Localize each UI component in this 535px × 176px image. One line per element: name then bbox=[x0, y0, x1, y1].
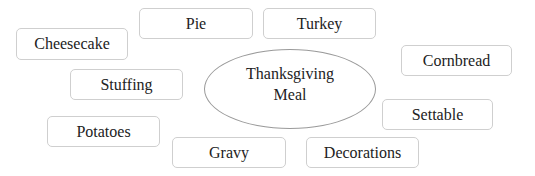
node-decorations: Decorations bbox=[306, 137, 419, 168]
node-potatoes: Potatoes bbox=[47, 116, 160, 147]
node-cornbread: Cornbread bbox=[401, 45, 512, 76]
central-topic-line-2: Meal bbox=[274, 84, 307, 105]
central-topic-line-1: Thanksgiving bbox=[246, 63, 334, 84]
node-settable: Settable bbox=[382, 99, 493, 130]
node-label: Pie bbox=[186, 16, 206, 32]
node-cheesecake: Cheesecake bbox=[16, 28, 128, 60]
node-label: Cheesecake bbox=[34, 36, 110, 52]
node-turkey: Turkey bbox=[263, 8, 376, 39]
node-label: Stuffing bbox=[100, 77, 152, 93]
node-stuffing: Stuffing bbox=[70, 69, 183, 100]
node-label: Gravy bbox=[209, 145, 249, 161]
node-label: Settable bbox=[412, 107, 464, 123]
node-gravy: Gravy bbox=[172, 137, 286, 168]
central-topic-ellipse: Thanksgiving Meal bbox=[204, 49, 376, 129]
node-label: Decorations bbox=[324, 145, 401, 161]
node-label: Cornbread bbox=[423, 53, 491, 69]
node-pie: Pie bbox=[139, 8, 253, 39]
node-label: Potatoes bbox=[76, 124, 130, 140]
node-label: Turkey bbox=[297, 16, 343, 32]
